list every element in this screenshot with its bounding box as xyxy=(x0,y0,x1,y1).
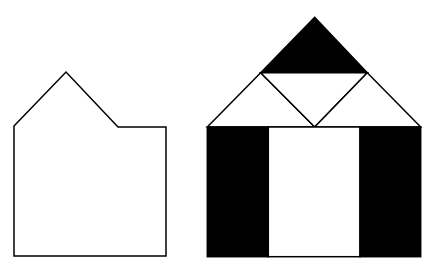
right-pillar-rect xyxy=(360,127,421,257)
left-pillar-rect xyxy=(207,127,268,257)
left-house-outline xyxy=(14,72,166,256)
door-rect xyxy=(268,127,360,257)
right-house xyxy=(207,17,420,256)
diagram-canvas xyxy=(0,0,431,268)
roof-top-triangle xyxy=(261,17,368,72)
